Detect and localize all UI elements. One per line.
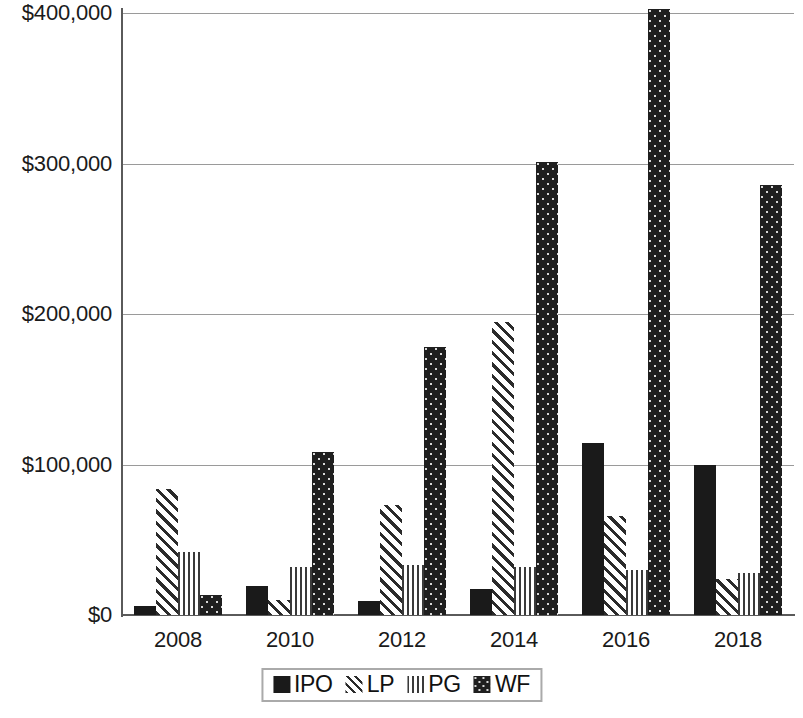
bar-group xyxy=(122,13,234,615)
bar-wf[interactable] xyxy=(200,595,222,615)
bar-lp[interactable] xyxy=(380,505,402,615)
y-axis-tick-label: $400,000 xyxy=(0,2,112,24)
bar-ipo[interactable] xyxy=(134,606,156,615)
legend-item-pg[interactable]: PG xyxy=(407,673,461,696)
bar-group xyxy=(570,13,682,615)
vertical-lines-square-icon xyxy=(407,676,424,693)
bar-pg[interactable] xyxy=(626,570,648,615)
solid-square-icon xyxy=(273,676,290,693)
bar-lp[interactable] xyxy=(268,600,290,615)
x-axis-tick-label: 2008 xyxy=(122,624,234,658)
bar-groups xyxy=(122,13,794,615)
bar-ipo[interactable] xyxy=(582,443,604,615)
x-axis-tick-label: 2018 xyxy=(682,624,794,658)
bar-wf[interactable] xyxy=(312,452,334,615)
bar-lp[interactable] xyxy=(492,322,514,615)
x-axis-tick-label: 2010 xyxy=(234,624,346,658)
bar-group xyxy=(682,13,794,615)
x-axis-tick-labels: 200820102012201420162018 xyxy=(122,624,794,658)
bar-lp[interactable] xyxy=(156,489,178,615)
dotted-square-icon xyxy=(474,676,491,693)
diagonal-hatch-square-icon xyxy=(346,676,363,693)
bar-ipo[interactable] xyxy=(358,601,380,615)
bar-group xyxy=(458,13,570,615)
legend-item-wf[interactable]: WF xyxy=(474,673,530,696)
x-axis-tick-label: 2014 xyxy=(458,624,570,658)
bar-pg[interactable] xyxy=(290,567,312,615)
bar-ipo[interactable] xyxy=(246,586,268,615)
bar-pg[interactable] xyxy=(402,565,424,615)
x-axis-tick-label: 2016 xyxy=(570,624,682,658)
legend-item-ipo[interactable]: IPO xyxy=(273,673,333,696)
legend-label: WF xyxy=(495,673,530,696)
bar-pg[interactable] xyxy=(514,567,536,615)
chart-legend: IPOLPPGWF xyxy=(261,668,542,702)
bar-group xyxy=(346,13,458,615)
y-axis-tick-label: $300,000 xyxy=(0,153,112,175)
legend-label: PG xyxy=(428,673,461,696)
bar-wf[interactable] xyxy=(536,162,558,615)
bar-group xyxy=(234,13,346,615)
bar-ipo[interactable] xyxy=(470,589,492,615)
bar-wf[interactable] xyxy=(648,9,670,616)
bar-lp[interactable] xyxy=(604,516,626,615)
y-axis-tick-label: $100,000 xyxy=(0,454,112,476)
bar-wf[interactable] xyxy=(760,185,782,615)
bar-wf[interactable] xyxy=(424,347,446,615)
x-axis-tick-label: 2012 xyxy=(346,624,458,658)
bar-pg[interactable] xyxy=(738,573,760,615)
legend-item-lp[interactable]: LP xyxy=(346,673,395,696)
legend-label: LP xyxy=(367,673,395,696)
bar-pg[interactable] xyxy=(178,552,200,615)
bar-lp[interactable] xyxy=(716,579,738,615)
y-axis-tick-label: $200,000 xyxy=(0,303,112,325)
y-axis-tick-label: $0 xyxy=(0,604,112,626)
legend-label: IPO xyxy=(294,673,333,696)
bar-ipo[interactable] xyxy=(694,465,716,616)
bar-chart: $0$100,000$200,000$300,000$400,000 20082… xyxy=(0,0,803,718)
